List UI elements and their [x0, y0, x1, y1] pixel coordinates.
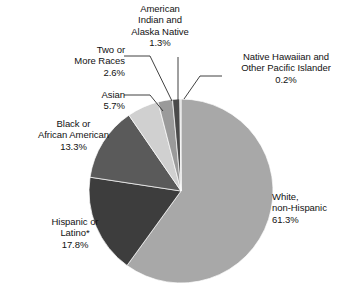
- label-line-2: Latino*: [25, 227, 125, 238]
- label-line-1: American: [113, 3, 207, 14]
- label-line-2: Indian and: [113, 14, 207, 25]
- label-line-1: Native Hawaiian and: [219, 51, 353, 62]
- label-line-1: Asian: [48, 89, 125, 100]
- pie-chart-figure: American Indian and Alaska Native 1.3% N…: [0, 0, 355, 305]
- slice-label-black-or-african-american: Black or African American 13.3%: [22, 118, 125, 152]
- label-percent: 13.3%: [22, 141, 125, 152]
- label-line-1: Two or: [51, 44, 125, 55]
- slice-label-american-indian: American Indian and Alaska Native 1.3%: [113, 3, 207, 49]
- label-line-1: Hispanic or: [25, 216, 125, 227]
- slice-label-two-or-more-races: Two or More Races 2.6%: [51, 44, 125, 78]
- slice-label-hispanic-or-latino: Hispanic or Latino* 17.8%: [25, 216, 125, 250]
- label-line-2: non-Hispanic: [272, 202, 352, 213]
- leader-line-two-or-more: [124, 56, 172, 101]
- label-line-2: Other Pacific Islander: [219, 62, 353, 73]
- label-percent: 17.8%: [25, 239, 125, 250]
- label-percent: 1.3%: [113, 37, 207, 48]
- label-percent: 5.7%: [48, 100, 125, 111]
- slice-label-native-hawaiian: Native Hawaiian and Other Pacific Island…: [219, 51, 353, 85]
- label-percent: 0.2%: [219, 74, 353, 85]
- slice-label-white-non-hispanic: White, non-Hispanic 61.3%: [272, 191, 352, 225]
- label-line-3: Alaska Native: [113, 26, 207, 37]
- leader-line-native-hawaiian: [184, 76, 222, 99]
- label-line-2: African American: [22, 129, 125, 140]
- label-line-1: Black or: [22, 118, 125, 129]
- label-percent: 61.3%: [272, 214, 352, 225]
- label-percent: 2.6%: [51, 67, 125, 78]
- label-line-1: White,: [272, 191, 352, 202]
- label-line-2: More Races: [51, 55, 125, 66]
- slice-label-asian: Asian 5.7%: [48, 89, 125, 112]
